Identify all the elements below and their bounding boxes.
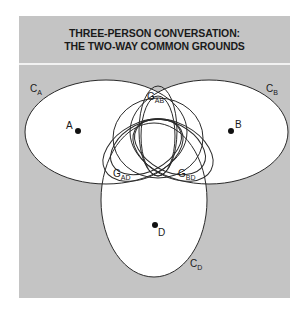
context-b-label: CB (266, 83, 278, 96)
person-d-label: D (158, 227, 165, 238)
venn-diagram: A B D CA CB CD GAB GAD GBD (0, 0, 306, 319)
person-b-label: B (235, 119, 242, 130)
context-d-label: CD (190, 258, 202, 271)
context-a-label: CA (30, 83, 42, 96)
person-a-dot (75, 128, 81, 134)
person-b-dot (228, 128, 234, 134)
person-a-label: A (66, 120, 73, 131)
